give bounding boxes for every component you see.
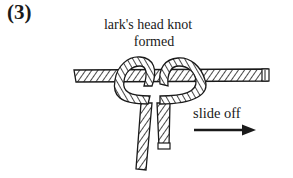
horizontal-rope [74, 69, 269, 82]
knot-illustration [0, 0, 293, 178]
slide-off-arrow-icon [194, 125, 256, 136]
hanging-strands [136, 103, 170, 170]
